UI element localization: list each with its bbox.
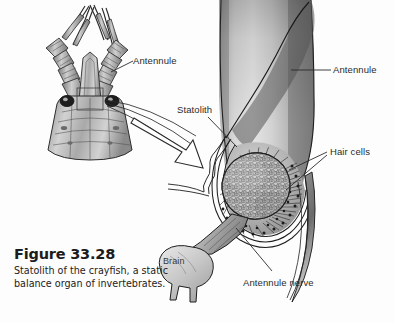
label-hair-cells: Hair cells: [330, 146, 370, 157]
figure-container: Antennule Antennule Statolith Hair cells…: [0, 0, 394, 323]
label-antennule-left: Antennule: [133, 55, 177, 66]
label-statolith: Statolith: [177, 104, 212, 115]
figure-caption: Figure 33.28 Statolith of the crayfish, …: [14, 247, 194, 291]
figure-caption-text: Statolith of the crayfish, a static bala…: [14, 264, 174, 290]
figure-number: Figure 33.28: [14, 247, 194, 262]
label-antennule-nerve: Antennule nerve: [243, 277, 314, 288]
label-antennule-right: Antennule: [333, 64, 377, 75]
